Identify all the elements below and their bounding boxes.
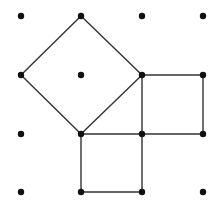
shapes-layer xyxy=(21,16,203,192)
grid-dot xyxy=(78,72,84,78)
grid-dot xyxy=(139,72,145,78)
right-square xyxy=(142,75,203,134)
grid-dot xyxy=(78,189,84,195)
bottom-square xyxy=(81,134,142,192)
grid-dot xyxy=(18,72,24,78)
grid-dot xyxy=(200,13,206,19)
grid-dot xyxy=(18,13,24,19)
grid-dot xyxy=(78,131,84,137)
grid-dot xyxy=(18,131,24,137)
grid-dot xyxy=(139,13,145,19)
grid-dot xyxy=(200,72,206,78)
grid-dot xyxy=(139,189,145,195)
dot-grid-diagram xyxy=(0,0,217,201)
grid-dot xyxy=(139,131,145,137)
grid-dot xyxy=(18,189,24,195)
grid-dot xyxy=(200,131,206,137)
grid-dot xyxy=(200,189,206,195)
grid-dot xyxy=(78,13,84,19)
